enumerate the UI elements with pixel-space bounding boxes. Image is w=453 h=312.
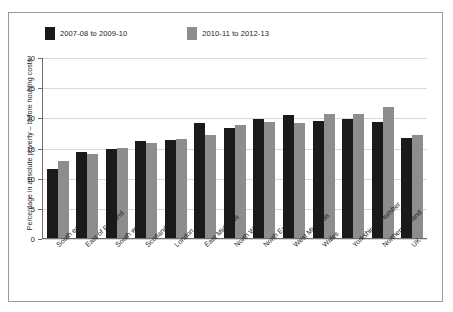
bar-group bbox=[250, 58, 280, 238]
y-tick-label-30: 30 bbox=[27, 54, 35, 63]
legend-label-2: 2010-11 to 2012-13 bbox=[202, 29, 269, 38]
bar-series-container bbox=[43, 58, 427, 238]
chart-frame: 2007-08 to 2009-10 2010-11 to 2012-13 Pe… bbox=[8, 12, 443, 302]
y-tick-label-0: 0 bbox=[31, 235, 35, 244]
bar-group bbox=[309, 58, 339, 238]
x-axis-labels: South eastEast of EnglandSouth westScotl… bbox=[43, 241, 428, 303]
bar-group bbox=[73, 58, 103, 238]
y-axis-line bbox=[42, 58, 43, 239]
bar bbox=[47, 169, 58, 238]
y-tick-label-10: 10 bbox=[27, 174, 35, 183]
x-axis-line bbox=[42, 238, 427, 239]
bar bbox=[176, 139, 187, 238]
bar bbox=[165, 140, 176, 238]
legend-label-1: 2007-08 to 2009-10 bbox=[60, 29, 127, 38]
bar bbox=[194, 123, 205, 238]
bar bbox=[58, 161, 69, 238]
bar-group bbox=[397, 58, 427, 238]
bar bbox=[146, 143, 157, 238]
bar bbox=[205, 135, 216, 238]
legend-item-2007-08-to-2009-10: 2007-08 to 2009-10 bbox=[45, 27, 127, 40]
y-tick-label-5: 5 bbox=[31, 204, 35, 213]
legend-swatch-black bbox=[45, 27, 55, 40]
bar-group bbox=[132, 58, 162, 238]
y-tick-label-20: 20 bbox=[27, 114, 35, 123]
bar-group bbox=[279, 58, 309, 238]
bar bbox=[294, 123, 305, 238]
bar bbox=[412, 135, 423, 238]
bar bbox=[117, 148, 128, 239]
bar bbox=[353, 114, 364, 238]
bar bbox=[87, 154, 98, 238]
legend-item-2010-11-to-2012-13: 2010-11 to 2012-13 bbox=[187, 27, 269, 40]
bar-group bbox=[161, 58, 191, 238]
bar-group bbox=[338, 58, 368, 238]
chart-legend: 2007-08 to 2009-10 2010-11 to 2012-13 bbox=[45, 27, 269, 40]
bar-group bbox=[191, 58, 221, 238]
bar-group bbox=[220, 58, 250, 238]
y-tick-label-15: 15 bbox=[27, 144, 35, 153]
bar bbox=[264, 122, 275, 238]
bar bbox=[342, 119, 353, 238]
y-tick-label-25: 25 bbox=[27, 84, 35, 93]
legend-swatch-gray bbox=[187, 27, 197, 40]
y-tick-0 bbox=[38, 239, 42, 240]
bar bbox=[283, 115, 294, 238]
bar-group bbox=[43, 58, 73, 238]
